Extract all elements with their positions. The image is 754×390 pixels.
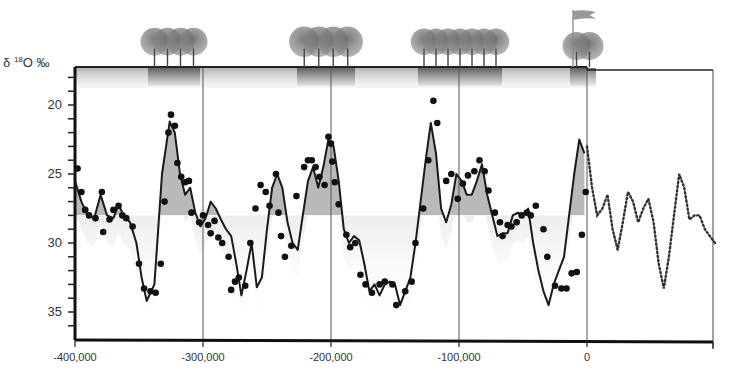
x-tick-label: -100,000 bbox=[419, 351, 499, 363]
x-tick-label: -300,000 bbox=[163, 351, 243, 363]
oxygen-isotope-chart bbox=[0, 0, 754, 390]
tree-cluster-icon bbox=[289, 27, 363, 67]
x-tick-label: -200,000 bbox=[291, 351, 371, 363]
tree-cluster-icon bbox=[141, 28, 208, 67]
interglacial-trees bbox=[141, 10, 604, 67]
y-axis-title: δ 18O ‰ bbox=[3, 55, 50, 70]
x-tick-label: 0 bbox=[547, 351, 627, 363]
tree-cluster-icon bbox=[411, 28, 509, 67]
y-tick-label: 20 bbox=[22, 97, 62, 112]
surface-strata bbox=[76, 68, 596, 88]
y-tick-label: 30 bbox=[22, 235, 62, 250]
y-tick-label: 35 bbox=[22, 304, 62, 319]
y-tick-label: 25 bbox=[22, 166, 62, 181]
x-tick-label: -400,000 bbox=[35, 351, 115, 363]
projection-curve bbox=[587, 146, 715, 288]
tree-with-flag-icon bbox=[563, 10, 604, 67]
